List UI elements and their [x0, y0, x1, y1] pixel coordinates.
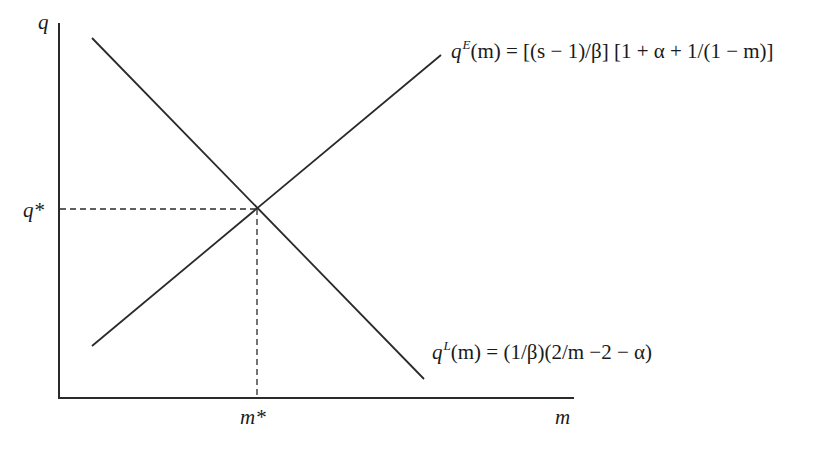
qL-superscript: L	[444, 338, 451, 353]
diagram-canvas	[0, 0, 824, 450]
y-axis-label: q	[38, 12, 49, 33]
x-axis-label: m	[555, 407, 570, 428]
qL-argument: (m)	[451, 340, 481, 364]
qL-rhs: = (1/β)(2/m −2 − α)	[481, 340, 652, 364]
curve-qE-equation: qE(m) = [(s − 1)/β] [1 + α + 1/(1 − m)]	[451, 38, 774, 62]
qE-symbol: q	[451, 39, 462, 63]
m-star-label: m*	[240, 407, 266, 428]
q-star-label: q*	[23, 200, 44, 221]
qE-argument: (m)	[470, 39, 500, 63]
qE-rhs: = [(s − 1)/β] [1 + α + 1/(1 − m)]	[501, 39, 774, 63]
curve-qL-equation: qL(m) = (1/β)(2/m −2 − α)	[432, 339, 652, 363]
curve-qE-upward	[92, 55, 441, 346]
qL-symbol: q	[432, 340, 443, 364]
